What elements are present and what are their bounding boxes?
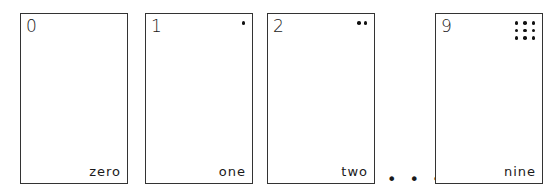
pip-dot-icon — [515, 21, 519, 25]
card-word: nine — [504, 164, 536, 179]
pip-dot-icon — [532, 29, 536, 33]
pip-dot-icon — [242, 21, 246, 25]
pip-group-icon — [515, 21, 536, 40]
card-numeral: 1 — [151, 16, 162, 36]
pip-dot-icon — [532, 36, 536, 40]
card-two: 2 two — [267, 13, 375, 184]
pip-dot-icon — [523, 36, 527, 40]
pip-dot-icon — [364, 21, 368, 25]
card-one: 1 one — [145, 13, 253, 184]
card-nine: 9 nine — [435, 13, 543, 184]
pip-dot-icon — [532, 21, 536, 25]
card-numeral: 0 — [26, 16, 37, 36]
pip-dot-icon — [523, 21, 527, 25]
card-word: two — [341, 164, 368, 179]
pip-dot-icon — [515, 29, 519, 33]
pip-dot-icon — [357, 21, 361, 25]
pip-group-icon — [242, 21, 246, 25]
pip-dot-icon — [523, 29, 527, 33]
card-zero: 0 zero — [20, 13, 128, 184]
card-word: one — [219, 164, 246, 179]
pip-dot-icon — [515, 36, 519, 40]
card-numeral: 2 — [273, 16, 284, 36]
card-word: zero — [89, 164, 121, 179]
pip-group-icon — [357, 21, 367, 25]
card-numeral: 9 — [441, 16, 452, 36]
